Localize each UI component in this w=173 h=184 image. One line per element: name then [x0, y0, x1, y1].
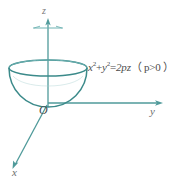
origin-label: O — [39, 104, 48, 116]
paraboloid-drawing — [0, 0, 173, 184]
x-axis-label: x — [12, 167, 17, 178]
equation-rhs: 2pz — [116, 61, 131, 73]
paraboloid-figure: x2+y2=2pz（ p>0 ） z y x O — [0, 0, 173, 184]
equation-condition: （ p>0 ） — [131, 61, 173, 73]
z-axis-label: z — [42, 6, 46, 16]
y-axis-label: y — [150, 106, 155, 117]
surface-equation-label: x2+y2=2pz（ p>0 ） — [88, 58, 173, 74]
